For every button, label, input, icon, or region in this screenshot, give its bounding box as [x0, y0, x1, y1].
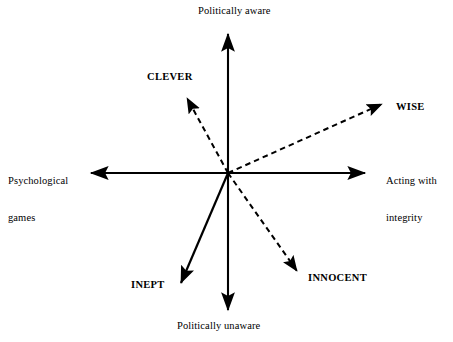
axis-label-acting-with-integrity-line2: integrity [386, 212, 437, 224]
axis-label-acting-with-integrity-line1: Acting with [386, 175, 437, 187]
vector-label-wise: WISE [396, 101, 425, 113]
vector-wise-line [228, 104, 382, 173]
axis-label-politically-aware: Politically aware [198, 5, 271, 17]
axis-label-psychological-games: Psychological games [8, 150, 68, 249]
vector-inept-line [181, 173, 228, 283]
axis-label-politically-unaware: Politically unaware [177, 320, 260, 332]
vector-innocent-line [228, 173, 297, 271]
vector-label-innocent: INNOCENT [308, 272, 367, 284]
diagram-canvas: Politically aware Politically unaware Ps… [0, 0, 453, 342]
axis-label-psychological-games-line2: games [8, 212, 68, 224]
vector-label-inept: INEPT [131, 279, 165, 291]
axis-label-acting-with-integrity: Acting with integrity [386, 150, 437, 249]
vector-label-clever: CLEVER [147, 71, 193, 83]
vector-clever-line [187, 98, 228, 173]
axis-label-psychological-games-line1: Psychological [8, 175, 68, 187]
